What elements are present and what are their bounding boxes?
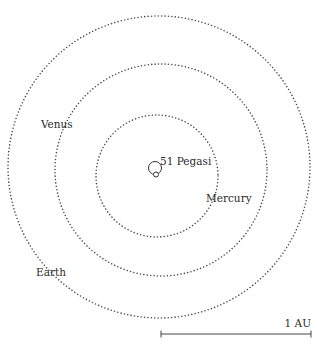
mercury-label: Mercury bbox=[206, 192, 252, 204]
pegasi-b-planet-icon bbox=[154, 172, 159, 177]
scale-bar-label: 1 AU bbox=[285, 317, 312, 329]
star-label: 51 Pegasi bbox=[160, 155, 212, 167]
venus-label: Venus bbox=[40, 118, 73, 130]
orbit-diagram: 51 Pegasi Mercury Venus Earth 1 AU bbox=[0, 0, 317, 345]
scale-bar: 1 AU bbox=[161, 317, 311, 338]
earth-label: Earth bbox=[36, 266, 66, 278]
